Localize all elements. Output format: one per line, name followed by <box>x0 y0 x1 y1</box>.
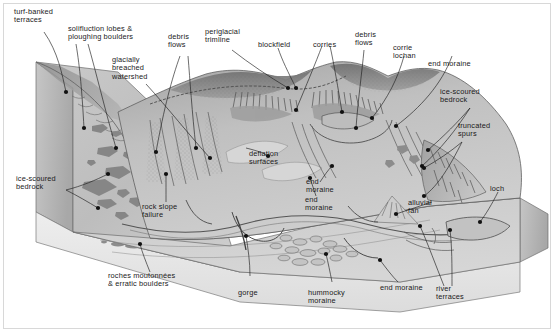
label-blockfield: blockfield <box>258 41 290 49</box>
label-end-moraine-bottom: end moraine <box>380 284 423 292</box>
dot-hummocky-moraine <box>324 252 328 256</box>
dot-turf-banked-terraces <box>64 90 68 94</box>
label-end-moraine-mid-right: end moraine <box>306 178 334 195</box>
dot-blockfield <box>294 86 298 90</box>
label-debris-flows-right: debris flows <box>355 31 376 48</box>
dot-corries-b <box>340 110 344 114</box>
block-left-face <box>36 62 73 232</box>
label-end-moraine-centre: end moraine <box>305 196 333 213</box>
label-roches-moutonnees: roches moutonnées & erratic boulders <box>108 272 175 289</box>
label-glacially-breached-watershed: glacially breached watershed <box>112 56 147 81</box>
label-corries: corries <box>313 41 336 49</box>
label-end-moraine-upper-right: end moraine <box>428 60 471 68</box>
dot-truncated-spurs-a <box>422 166 426 170</box>
dot-corrie-lochan <box>370 116 374 120</box>
dot-end-moraine-mid-right <box>330 164 334 168</box>
label-truncated-spurs: truncated spurs <box>458 122 490 139</box>
dot-ice-scoured-bedrock-left-b <box>96 206 100 210</box>
label-loch: loch <box>490 185 504 193</box>
dot-alluvial-fan <box>394 212 398 216</box>
dot-rock-slope-failure <box>164 172 168 176</box>
label-hummocky-moraine: hummocky moraine <box>308 289 345 306</box>
dot-gorge <box>244 234 248 238</box>
dot-periglacial-trimline <box>286 86 290 90</box>
dot-solifluction-a <box>82 126 86 130</box>
dot-ice-scoured-bedrock-right-a <box>426 148 430 152</box>
figure-container: turf-banked terraces solifluction lobes … <box>0 0 556 334</box>
dot-ice-scoured-bedrock-left-a <box>106 172 110 176</box>
dot-debris-flows-left-b <box>194 146 198 150</box>
label-corrie-lochan: corrie lochan <box>393 44 416 61</box>
debris-cone-stipple <box>146 116 223 182</box>
label-solifluction-lobes: solifluction lobes & ploughing boulders <box>68 25 133 42</box>
block-diagram-illustration <box>0 0 556 334</box>
label-debris-flows-left: debris flows <box>168 33 189 50</box>
label-periglacial-trimline: periglacial trimline <box>205 28 240 45</box>
dot-roches-moutonnees <box>138 242 142 246</box>
label-turf-banked-terraces: turf-banked terraces <box>14 8 53 25</box>
dot-debris-flows-left-a <box>154 150 158 154</box>
dot-river-terraces-a <box>418 224 422 228</box>
label-river-terraces: river terraces <box>436 285 464 302</box>
dot-debris-flows-right <box>354 126 358 130</box>
label-gorge: gorge <box>238 289 258 297</box>
label-alluvial-fan: alluvial fan <box>408 199 432 216</box>
label-ice-scoured-bedrock-left: ice-scoured bedrock <box>16 175 56 192</box>
dot-end-moraine-bottom <box>378 258 382 262</box>
dot-corries-a <box>294 108 298 112</box>
dot-river-terraces-b <box>448 228 452 232</box>
label-deflation-surfaces: deflation surfaces <box>249 150 278 167</box>
dot-glacially-breached-watershed <box>208 156 212 160</box>
label-rock-slope-failure: rock slope failure <box>142 203 177 220</box>
label-ice-scoured-bedrock-right: ice-scoured bedrock <box>440 88 480 105</box>
dot-solifluction-b <box>114 146 118 150</box>
dot-loch <box>478 220 482 224</box>
dot-end-moraine-upper-right <box>394 124 398 128</box>
block-right-face <box>520 198 548 262</box>
